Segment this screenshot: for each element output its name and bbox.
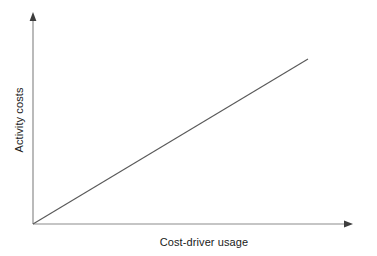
chart-background (0, 0, 377, 256)
activity-cost-chart: Activity costs Cost-driver usage (0, 0, 377, 256)
chart-canvas: Activity costs Cost-driver usage (0, 0, 377, 256)
y-axis-label: Activity costs (13, 87, 25, 152)
x-axis-label: Cost-driver usage (160, 236, 249, 248)
